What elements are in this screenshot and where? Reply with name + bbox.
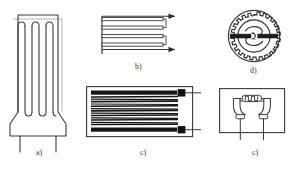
wire-grid-turns — [163, 19, 166, 44]
grid-loop-4 — [53, 112, 56, 116]
central-serpentine-element — [242, 95, 262, 101]
grid-loop-2 — [32, 22, 46, 116]
panel-a-caption: a) — [36, 148, 42, 157]
grid-loop-1 — [25, 26, 32, 116]
panel-c-foil-grid-gauge-with-solder-tabs — [86, 86, 202, 138]
arrow-lead-bottom — [102, 47, 175, 53]
panel-b-caption: b) — [135, 62, 142, 71]
panel-e-diaphragm-strain-gauge — [219, 88, 291, 146]
horizontal-bar — [230, 33, 278, 39]
panel-c-caption: c) — [140, 148, 146, 157]
strain-gauge-figure: a) — [0, 0, 301, 173]
panel-e-caption: c) — [252, 148, 258, 157]
panel-d-rosette-strain-gauge — [226, 8, 282, 64]
solder-tab-bottom — [178, 127, 185, 134]
wire-grid-filaments — [102, 18, 163, 47]
solder-tab-top — [178, 90, 185, 97]
panel-a-foil-strain-gauge-with-leads — [14, 12, 72, 144]
grid-loop-5 — [18, 22, 25, 112]
grid-loop-3 — [46, 22, 53, 112]
panel-d-caption: d) — [250, 66, 257, 75]
panel-b-wire-grid-gauge-schematic — [100, 14, 185, 58]
carrier-inner-frame — [14, 19, 62, 111]
